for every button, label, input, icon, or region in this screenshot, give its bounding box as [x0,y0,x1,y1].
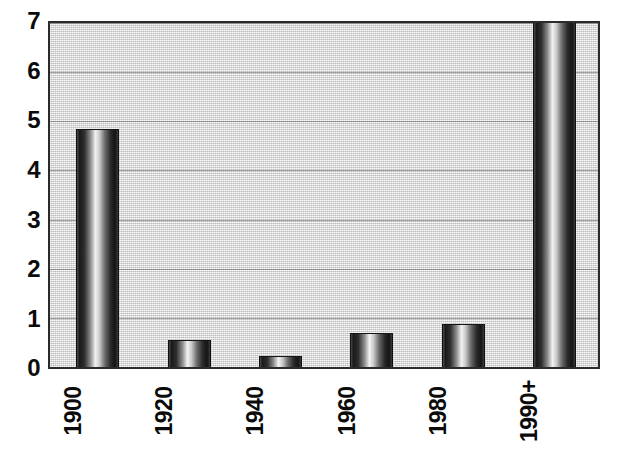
x-axis: 190019201940196019801990+ [48,369,600,450]
y-tick-label-5: 5 [0,108,40,132]
x-tick-1990+: 1990+ [539,375,565,447]
x-tick-1980: 1980 [448,375,474,447]
y-tick-label-2: 2 [0,257,40,281]
x-tick-1920: 1920 [174,375,200,447]
y-tick-label-4: 4 [0,158,40,182]
x-tick-label: 1990+ [516,375,542,447]
x-tick-label: 1900 [60,375,86,447]
x-tick-label: 1920 [151,375,177,447]
bar-1900 [76,129,119,367]
bar-1980 [442,324,485,367]
bar-1940 [259,356,302,367]
bar-1960 [350,333,393,367]
y-tick-label-6: 6 [0,59,40,83]
y-tick-label-3: 3 [0,208,40,232]
y-axis: 7 6 5 4 3 2 1 0 [0,0,44,450]
bar-1990+ [533,23,576,367]
x-tick-1960: 1960 [357,375,383,447]
bar-1920 [168,340,211,367]
y-tick-label-7: 7 [0,9,40,33]
bar-series [50,23,598,367]
x-tick-label: 1980 [425,375,451,447]
x-tick-label: 1960 [334,375,360,447]
plot-area [48,21,600,369]
x-tick-1900: 1900 [83,375,109,447]
bar-chart-figure: 7 6 5 4 3 2 1 0 190019201940196019801990… [0,0,629,450]
x-tick-label: 1940 [242,375,268,447]
x-tick-1940: 1940 [265,375,291,447]
y-tick-label-0: 0 [0,356,40,380]
y-tick-label-1: 1 [0,307,40,331]
